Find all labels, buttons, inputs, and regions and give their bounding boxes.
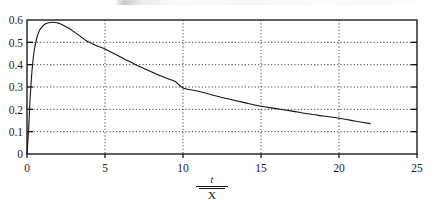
y-tick-label: 0 xyxy=(17,148,23,160)
x-tick-label: 0 xyxy=(24,162,30,174)
x-axis-label-numerator: t xyxy=(196,175,228,186)
x-tick-label: 15 xyxy=(255,162,267,174)
x-axis-label-denominator: X xyxy=(208,189,216,200)
y-tick-label: 0.5 xyxy=(9,37,24,49)
y-tick-label: 0.2 xyxy=(9,104,24,116)
y-tick-label: 0.3 xyxy=(9,81,24,93)
y-axis-ticks-right xyxy=(411,42,417,131)
y-tick-labels: 0.6 0.5 0.4 0.3 0.2 0.1 0 xyxy=(9,14,24,160)
x-tick-label: 10 xyxy=(177,162,189,174)
plot-canvas: 0.6 0.5 0.4 0.3 0.2 0.1 0 0 5 10 15 20 2… xyxy=(0,0,436,199)
chart-figure: 0.6 0.5 0.4 0.3 0.2 0.1 0 0 5 10 15 20 2… xyxy=(0,0,436,199)
x-tick-label: 5 xyxy=(102,162,108,174)
x-axis-label-denominator-wrap: X xyxy=(196,188,228,199)
y-tick-label: 0.6 xyxy=(9,14,24,26)
y-tick-label: 0.1 xyxy=(9,126,24,138)
x-tick-label: 20 xyxy=(333,162,345,174)
grid-lines-horizontal xyxy=(27,42,417,131)
y-tick-label: 0.4 xyxy=(9,59,24,71)
x-tick-labels: 0 5 10 15 20 25 xyxy=(24,162,423,174)
x-tick-label: 25 xyxy=(411,162,423,174)
fraction-bar-icon xyxy=(196,186,228,187)
y-axis-ticks-left xyxy=(27,42,33,131)
x-axis-label: t X xyxy=(196,175,228,199)
